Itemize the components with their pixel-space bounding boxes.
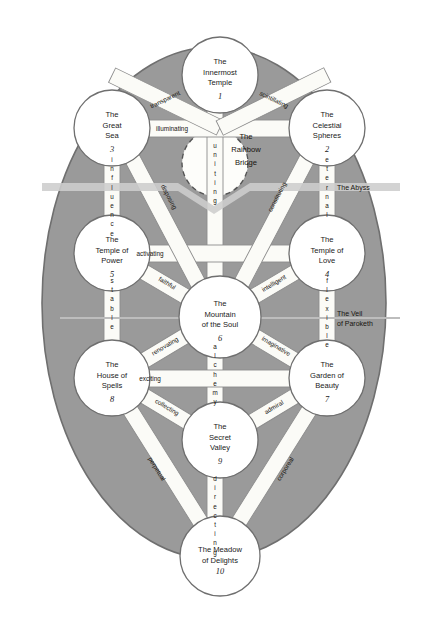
node-label-line3: Temple [208, 78, 232, 87]
path-label-char: e [110, 323, 114, 330]
node-label-line2: Temple of [311, 246, 345, 255]
path-label-char: e [110, 230, 114, 237]
node-n10[interactable]: The Meadowof Delights10 [180, 516, 260, 596]
node-label-line3: of the Soul [202, 320, 239, 329]
path-label-char: n [110, 165, 114, 172]
bridge-line1: The [239, 132, 252, 141]
path-label-char: e [325, 295, 329, 302]
path-label-char: a [213, 343, 217, 350]
bridge-line2: Rainbow [231, 145, 261, 154]
path-label-char: l [214, 352, 215, 359]
node-label-line2: Great [103, 121, 123, 130]
node-n9[interactable]: TheSecretValley9 [182, 402, 258, 478]
path-label-char: b [110, 305, 114, 312]
path-label-char: t [214, 521, 216, 528]
path-label-char: e [110, 202, 114, 209]
path-label-p_8_7: exciting [139, 375, 161, 383]
tree-of-life-diagram: TheInnermostTemple1TheCelestialSpheres2T… [0, 0, 429, 617]
node-n3[interactable]: TheGreatSea3 [74, 90, 150, 166]
node-n6[interactable]: TheMountainof the Soul6 [179, 276, 261, 358]
node-label-line1: The Meadow [198, 545, 242, 554]
path-label-char: l [111, 184, 112, 191]
path-label-char: s [110, 277, 113, 284]
node-n7[interactable]: TheGarden ofBeauty7 [289, 340, 365, 416]
path-label-char: r [326, 184, 328, 191]
node-label-line1: The [213, 57, 226, 66]
path-label-char: a [110, 295, 114, 302]
path-label-char: i [111, 156, 112, 163]
path-label-char: i [214, 530, 215, 537]
node-label-line3: Beauty [315, 381, 339, 390]
bridge-line3: Bridge [235, 158, 257, 167]
path-label-char: b [325, 323, 329, 330]
path-label-char: t [214, 170, 216, 177]
path-label-char: r [214, 493, 216, 500]
path-label-char: n [213, 151, 217, 158]
node-label-line3: Love [319, 256, 335, 265]
paroketh-label-line1: The Veil [337, 310, 363, 317]
path-label-char: e [325, 156, 329, 163]
path-label-char: f [111, 174, 113, 181]
node-label-line1: The [213, 299, 226, 308]
path-label-char: t [326, 165, 328, 172]
node-number: 10 [216, 567, 225, 576]
path-label-char: u [213, 142, 217, 149]
node-n2[interactable]: TheCelestialSpheres2 [289, 90, 365, 166]
node-label-line1: The [320, 360, 333, 369]
node-label-line1: The [320, 110, 333, 119]
path-label-char: i [214, 484, 215, 491]
path-label-char: d [213, 475, 217, 482]
path-label-char: n [110, 211, 114, 218]
node-label-line3: Valley [210, 443, 230, 452]
node-label-line2: Innermost [203, 68, 238, 77]
diagram-canvas: TheInnermostTemple1TheCelestialSpheres2T… [0, 0, 429, 617]
path-label-char: m [212, 389, 217, 396]
node-label-line1: The [105, 360, 118, 369]
path-label-char: e [213, 503, 217, 510]
path-label-char: i [214, 179, 215, 186]
path-label-char: f [326, 277, 328, 284]
path-label-char: n [325, 193, 329, 200]
path-label-char: c [110, 220, 113, 227]
path-label-char: l [326, 211, 327, 218]
node-label-line3: Spells [102, 381, 123, 390]
path-label-p_3_2: illuminating [156, 125, 188, 133]
node-n1[interactable]: TheInnermostTemple1 [182, 37, 258, 113]
node-label-line2: Mountain [204, 310, 235, 319]
path-label-p_5_4: activating [137, 250, 164, 258]
path-label-char: t [111, 286, 113, 293]
path-label-char: l [111, 314, 112, 321]
node-label-line2: of Delights [202, 556, 238, 565]
node-label-line3: Spheres [313, 131, 341, 140]
node-label-line1: The [213, 422, 226, 431]
node-label-line2: Secret [209, 433, 232, 442]
path-label-char: n [213, 188, 217, 195]
path-label-char: n [213, 539, 217, 546]
path-label-char: i [326, 314, 327, 321]
path-label-char: c [213, 361, 216, 368]
node-label-line2: House of [97, 371, 128, 380]
path-label-char: i [214, 160, 215, 167]
node-label-line2: Temple of [96, 246, 130, 255]
node-label-line2: Garden of [310, 371, 345, 380]
path-label-char: u [110, 193, 114, 200]
node-number: 3 [109, 145, 114, 154]
path-label-char: a [325, 202, 329, 209]
abyss-label: The Abyss [337, 184, 370, 192]
path-label-char: h [213, 371, 217, 378]
path-label-char: g [213, 549, 217, 557]
path-label-char: l [326, 332, 327, 339]
node-number: 2 [325, 145, 329, 154]
node-label-line2: Celestial [312, 121, 341, 130]
path-label-char: e [325, 174, 329, 181]
node-number: 1 [218, 92, 222, 101]
node-label-line1: The [105, 110, 118, 119]
path-label-char: c [213, 512, 216, 519]
path-label-char: e [213, 380, 217, 387]
path-label-char: g [213, 197, 217, 205]
node-label-line1: The [320, 235, 333, 244]
paroketh-label-line2: of Paroketh [337, 320, 373, 327]
path-label-char: l [326, 286, 327, 293]
path-label-char: e [325, 341, 329, 348]
node-label-line3: Sea [105, 131, 119, 140]
